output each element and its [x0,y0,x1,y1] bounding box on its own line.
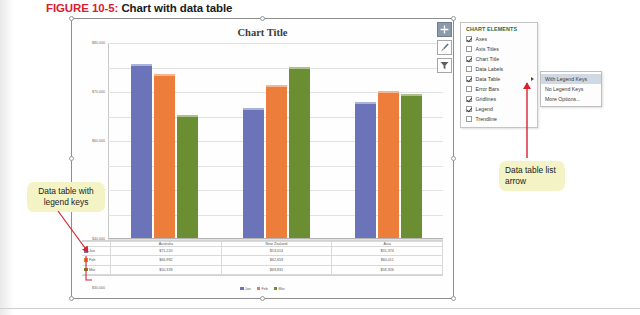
chart-resize-handle-bottom-right[interactable] [451,296,456,301]
bar-jan-new-zealand[interactable] [243,108,264,238]
table-cell: $66,992 [111,256,222,265]
table-cell: $60,011 [332,256,443,265]
table-row: Feb$66,992$62,659$60,011 [82,256,443,265]
bar-highlight [154,74,175,76]
y-axis-tick-label: $80,000 [92,41,105,45]
legend-key-swatch [84,268,88,272]
chart-element-item-data-labels[interactable]: Data Labels [461,64,537,74]
chart-legend[interactable]: JanFebMar [72,287,453,291]
data-table-submenu: With Legend KeysNo Legend KeysMore Optio… [540,71,602,107]
submenu-arrow-icon[interactable] [531,77,534,81]
chart-element-item-axes[interactable]: Axes [461,34,537,44]
checkbox[interactable] [466,56,472,62]
bar-mar-asia[interactable] [401,94,422,238]
chart-resize-handle-bottom-left[interactable] [69,296,74,301]
bar-mar-new-zealand[interactable] [289,67,310,238]
bar-highlight [355,102,376,104]
checkbox[interactable] [466,76,472,82]
chart-resize-handle-bottom-middle[interactable] [260,296,265,301]
legend-label: Feb [261,287,267,291]
page-bottom-rule [0,308,640,309]
chart-element-item-gridlines[interactable]: Gridlines [461,94,537,104]
table-row-legend-key: Feb [82,256,111,265]
legend-item[interactable]: Jan [240,287,251,291]
table-cell: $55,374 [332,247,443,256]
chart-resize-handle-middle-right[interactable] [451,156,456,161]
checkbox[interactable] [466,116,472,122]
chart-elements-button[interactable] [437,22,452,37]
bar-group [108,42,220,238]
checkbox[interactable] [466,36,472,42]
paintbrush-icon [439,42,450,53]
table-row-legend-key: Jan [82,247,111,256]
bar-feb-asia[interactable] [378,91,399,238]
chart-element-label: Legend [476,106,493,112]
chart-element-item-trendline[interactable]: Trendline [461,114,537,124]
checkbox[interactable] [466,106,472,112]
bar-highlight [289,67,310,69]
chart-element-item-legend[interactable]: Legend [461,104,537,114]
figure-caption: FIGURE 10-5: Chart with data table [46,2,232,14]
chart-resize-handle-middle-left[interactable] [69,156,74,161]
bar-group [220,42,332,238]
legend-label: Mar [279,287,285,291]
chart-elements-panel: CHART ELEMENTS AxesAxis TitlesChart Titl… [460,22,538,128]
chart-element-label: Data Table [476,76,501,82]
chart-element-label: Gridlines [476,96,496,102]
table-cell: $71,220 [111,247,222,256]
submenu-item-more-options[interactable]: More Options... [541,94,601,104]
legend-label: Jan [245,287,251,291]
chart-element-label: Error Bars [476,86,500,92]
chart-element-label: Data Labels [476,66,504,72]
bar-highlight [131,64,152,66]
chart-object[interactable]: Chart Title $80,000$70,000$60,000$50,000… [71,18,454,299]
chart-elements-list: AxesAxis TitlesChart TitleData LabelsDat… [461,34,537,124]
bar-highlight [401,94,422,96]
checkbox[interactable] [466,66,472,72]
legend-key-swatch [84,249,88,253]
chart-element-label: Chart Title [476,56,500,62]
figure-label: FIGURE 10-5: [46,2,118,14]
legend-swatch [240,287,244,291]
chart-resize-handle-top-right[interactable] [451,16,456,21]
bar-feb-new-zealand[interactable] [266,85,287,239]
checkbox[interactable] [466,46,472,52]
legend-item[interactable]: Mar [274,287,285,291]
figure-caption-text: Chart with data table [121,2,232,14]
table-cell: $50,339 [111,265,222,274]
bar-group [333,42,445,238]
chart-element-item-chart-title[interactable]: Chart Title [461,54,537,64]
chart-resize-handle-top-left[interactable] [69,16,74,21]
callout-data-table-with-legend-keys: Data table with legend keys [27,182,105,212]
legend-key-label: Jan [89,249,95,253]
chart-resize-handle-top-middle[interactable] [260,16,265,21]
bar-jan-asia[interactable] [355,102,376,238]
chart-element-item-error-bars[interactable]: Error Bars [461,84,537,94]
submenu-item-no-legend-keys[interactable]: No Legend Keys [541,84,601,94]
chart-data-table: AustraliaNew ZealandAsia Jan$71,220$53,0… [82,240,443,276]
table-row: Mar$50,339$69,831$58,926 [82,265,443,274]
submenu-item-with-legend-keys[interactable]: With Legend Keys [541,74,601,84]
chart-element-label: Axes [476,36,488,42]
chart-element-item-data-table[interactable]: Data Table [461,74,537,84]
legend-item[interactable]: Feb [257,287,268,291]
table-cell: $62,659 [221,256,332,265]
table-body: Jan$71,220$53,014$55,374Feb$66,992$62,65… [82,247,443,275]
callout-data-table-list-arrow: Data table list arrow [499,161,565,191]
y-axis-tick-label: $70,000 [92,90,105,94]
checkbox[interactable] [466,96,472,102]
legend-key-label: Feb [89,259,95,263]
bar-mar-australia[interactable] [177,115,198,238]
chart-element-item-axis-titles[interactable]: Axis Titles [461,44,537,54]
y-axis-tick-label: $60,000 [92,139,105,143]
legend-swatch [274,287,278,291]
bar-highlight [177,115,198,117]
chart-styles-button[interactable] [437,40,452,55]
bar-feb-australia[interactable] [154,74,175,238]
chart-filters-button[interactable] [437,58,452,73]
data-table-grid: AustraliaNew ZealandAsia Jan$71,220$53,0… [82,241,443,275]
chart-title[interactable]: Chart Title [72,27,453,38]
plus-icon [439,24,450,35]
checkbox[interactable] [466,86,472,92]
bar-jan-australia[interactable] [131,64,152,238]
